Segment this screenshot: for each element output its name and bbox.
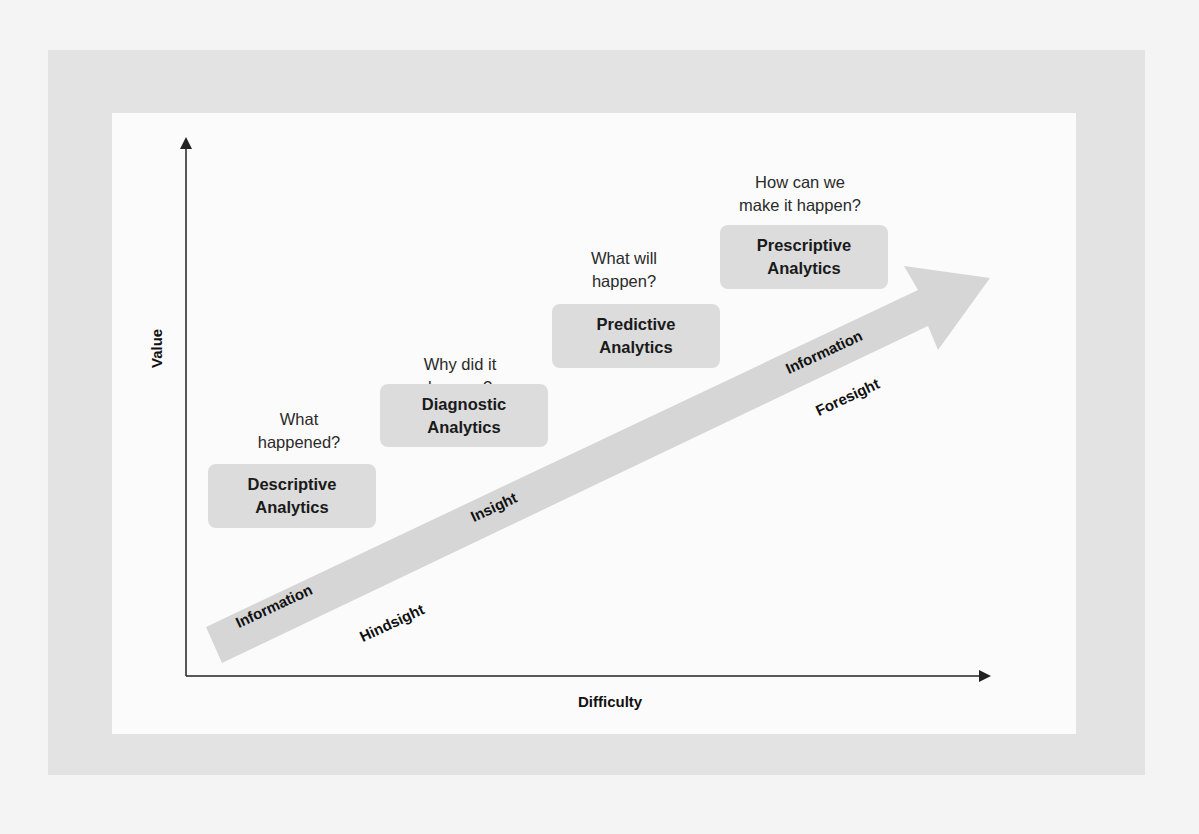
question-line: make it happen? xyxy=(720,194,880,217)
question-line: How can we xyxy=(720,171,880,194)
y-axis-label: Value xyxy=(148,329,165,368)
stage-title-line: Diagnostic xyxy=(422,393,506,416)
question-line: What will xyxy=(574,247,674,270)
question-line: Why did it xyxy=(400,353,520,376)
stage-title-line: Predictive xyxy=(597,313,676,336)
stage-box-diagnostic: Diagnostic Analytics xyxy=(380,384,548,447)
question-line: happened? xyxy=(244,431,354,454)
stage-question: What will happen? xyxy=(574,247,674,293)
stage-title-line: Prescriptive xyxy=(757,234,851,257)
stage-title-line: Descriptive xyxy=(248,473,337,496)
question-line: What xyxy=(244,408,354,431)
stage-box-descriptive: Descriptive Analytics xyxy=(208,464,376,528)
stage-box-predictive: Predictive Analytics xyxy=(552,304,720,368)
x-axis-label: Difficulty xyxy=(578,693,642,710)
stage-title-line: Analytics xyxy=(422,416,506,439)
question-line: happen? xyxy=(574,270,674,293)
stage-title-line: Analytics xyxy=(757,257,851,280)
stage-title-line: Analytics xyxy=(248,496,337,519)
stage-box-prescriptive: Prescriptive Analytics xyxy=(720,225,888,289)
stage-title-line: Analytics xyxy=(597,336,676,359)
stage-question: How can we make it happen? xyxy=(720,171,880,217)
stage-question: What happened? xyxy=(244,408,354,454)
